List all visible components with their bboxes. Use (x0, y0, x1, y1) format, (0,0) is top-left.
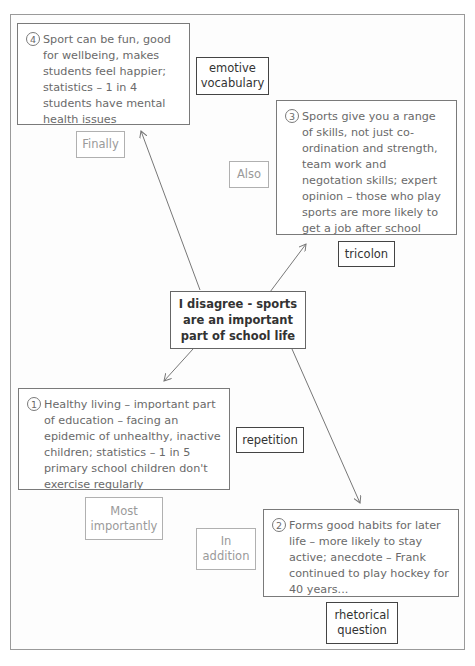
number-circle-icon: 4 (26, 32, 40, 46)
arrow-to-point-1 (164, 349, 193, 381)
number-circle-icon: 3 (285, 109, 299, 123)
arrow-to-point-2 (292, 349, 360, 503)
point-text: Sports give you a range of skills, not j… (302, 109, 448, 237)
point-box-3: 3 Sports give you a range of skills, not… (276, 100, 457, 235)
connective-finally: Finally (76, 131, 125, 158)
technique-rhetorical-question: rhetorical question (326, 602, 398, 644)
connective-most-importantly: Most importantly (85, 497, 163, 540)
technique-tricolon: tricolon (338, 241, 395, 267)
technique-emotive-vocabulary: emotive vocabulary (196, 57, 269, 95)
point-box-4: 4 Sport can be fun, good for wellbeing, … (17, 23, 190, 125)
point-text: Forms good habits for later life – more … (289, 518, 450, 598)
point-box-2: 2 Forms good habits for later life – mor… (263, 509, 459, 597)
central-thesis: I disagree - sports are an important par… (170, 291, 306, 349)
connective-also: Also (229, 161, 269, 188)
number-circle-icon: 2 (272, 518, 286, 532)
point-box-1: 1 Healthy living – important part of edu… (18, 388, 230, 490)
technique-repetition: repetition (236, 427, 304, 453)
connective-in-addition: In addition (196, 528, 256, 570)
point-text: Sport can be fun, good for wellbeing, ma… (43, 32, 181, 128)
arrow-to-point-3 (270, 244, 306, 292)
arrow-to-point-4 (141, 131, 200, 290)
number-circle-icon: 1 (27, 397, 41, 411)
point-text: Healthy living – important part of educa… (44, 397, 221, 493)
